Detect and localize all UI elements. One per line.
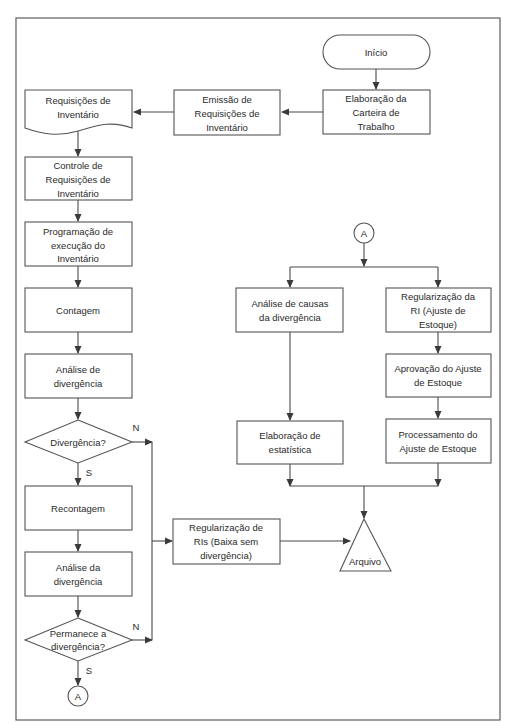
node-text: Divergência? — [50, 437, 105, 448]
node-text: Análise de causas — [251, 298, 328, 309]
node-text: RIs (Baixa sem — [194, 536, 258, 547]
edge-label-no: N — [133, 422, 140, 433]
node-text: Aprovação do Ajuste — [394, 363, 481, 374]
process-contagem: Contagem — [25, 288, 132, 332]
node-text: divergência — [54, 378, 103, 389]
edge-label-no: N — [133, 621, 140, 632]
node-text: A — [75, 691, 82, 702]
node-text: Programação de — [43, 226, 113, 237]
start-label: Início — [365, 47, 388, 58]
node-text: divergência) — [200, 550, 252, 561]
edge-label-yes: S — [86, 665, 92, 676]
start-terminal: Início — [323, 35, 430, 69]
node-text: Ajuste de Estoque — [399, 443, 476, 454]
node-text: Elaboração da — [345, 93, 407, 104]
connector-a-out: A — [68, 686, 88, 706]
node-text: divergência? — [51, 641, 105, 652]
process-controle-requisicoes: Controle de Requisições de Inventário — [25, 157, 132, 200]
node-text: Inventário — [57, 253, 99, 264]
node-text: Recontagem — [51, 503, 105, 514]
node-text: Trabalho — [357, 121, 394, 132]
process-analise-da-divergencia: Análise da divergência — [25, 552, 132, 596]
node-text: Requisições de — [195, 108, 260, 119]
node-text: Contagem — [56, 305, 100, 316]
process-programacao-execucao: Programação de execução do Inventário — [25, 222, 132, 266]
node-text: Arquivo — [349, 556, 381, 567]
decision-permanece-divergencia: Permanece a divergência? — [25, 618, 132, 661]
node-text: Inventário — [57, 188, 99, 199]
node-text: divergência — [54, 576, 103, 587]
node-text: Estoque) — [419, 319, 457, 330]
process-elaboracao-estatistica: Elaboração de estatística — [237, 421, 343, 464]
node-text: Emissão de — [202, 94, 252, 105]
connector-a-in: A — [354, 223, 374, 243]
process-regularizacao-ri: Regularização da RI (Ajuste de Estoque) — [386, 288, 491, 332]
node-text: Regularização da — [401, 291, 476, 302]
node-text: Processamento do — [398, 429, 477, 440]
edge-label-yes: S — [86, 467, 92, 478]
node-text: Análise da — [56, 562, 101, 573]
process-processamento-ajuste: Processamento do Ajuste de Estoque — [386, 419, 491, 463]
decision-divergencia: Divergência? — [25, 420, 132, 463]
node-text: Controle de — [53, 160, 102, 171]
process-analise-de-divergencia: Análise de divergência — [25, 354, 132, 398]
node-text: Elaboração de — [259, 430, 320, 441]
node-text: execução do — [51, 240, 105, 251]
node-text: Carteira de — [353, 107, 400, 118]
node-text: estatística — [269, 444, 312, 455]
node-text: A — [361, 228, 368, 239]
process-regularizacao-ris: Regularização de RIs (Baixa sem divergên… — [173, 519, 280, 564]
node-text: Análise de — [56, 364, 100, 375]
process-analise-causas: Análise de causas da divergência — [236, 288, 343, 332]
flowchart-diagram: Início Elaboração da Carteira de Trabalh… — [0, 0, 512, 728]
process-elaboracao-carteira: Elaboração da Carteira de Trabalho — [323, 90, 430, 134]
node-text: Permanece a — [50, 628, 107, 639]
node-text: RI (Ajuste de — [411, 305, 466, 316]
process-aprovacao-ajuste: Aprovação do Ajuste de Estoque — [386, 354, 491, 397]
node-text: Requisições de — [46, 95, 111, 106]
storage-arquivo: Arquivo — [340, 519, 391, 571]
process-emissao-requisicoes: Emissão de Requisições de Inventário — [174, 90, 280, 135]
process-recontagem: Recontagem — [25, 486, 132, 530]
node-text: Requisições de — [46, 174, 111, 185]
node-text: Inventário — [57, 109, 99, 120]
node-text: de Estoque — [414, 377, 462, 388]
node-text: da divergência — [259, 312, 322, 323]
document-requisicoes-inventario: Requisições de Inventário — [25, 90, 132, 134]
node-text: Inventário — [206, 122, 248, 133]
node-text: Regularização de — [189, 522, 263, 533]
